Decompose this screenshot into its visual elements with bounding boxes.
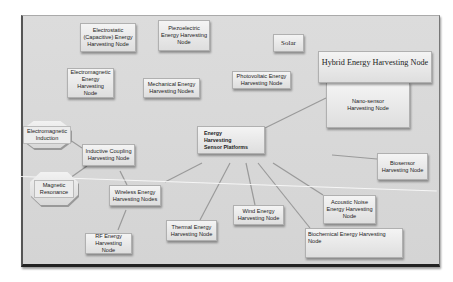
node-label: Solar (281, 39, 296, 47)
node-electromagnetic[interactable]: Electromagnetic Energy Harvesting Node (67, 68, 114, 98)
node-thermal[interactable]: Thermal Energy Harvesting Node (166, 220, 217, 241)
node-label: Biochemical Energy Harvesting Node (308, 231, 396, 245)
node-inductive-coupling[interactable]: Inductive Coupling Harvesting Node (82, 144, 135, 166)
node-piezoelectric[interactable]: Piezoelectric Energy Harvesting Node (158, 20, 210, 51)
node-label: Hybrid Energy Harvesting Node (322, 58, 429, 67)
node-label: Electrostatic (Capacitive) Energy Harves… (83, 27, 133, 48)
node-label: Wireless Energy Harvesting Nodes (112, 189, 158, 203)
node-rf[interactable]: RF Energy Harvesting Node (85, 233, 132, 254)
node-acoustic[interactable]: Acoustic Noise Energy Harvesting Node (323, 195, 376, 224)
node-label: Nano-sensor Harvesting Node (344, 98, 392, 112)
node-biochemical[interactable]: Biochemical Energy Harvesting Node (305, 228, 403, 258)
node-solar[interactable]: Solar (273, 34, 304, 52)
node-label: Thermal Energy Harvesting Node (169, 224, 214, 238)
node-label: Biosensor Harvesting Node (380, 160, 425, 174)
node-photovoltaic[interactable]: Photovoltaic Energy Harvesting Node (232, 71, 291, 89)
node-wind[interactable]: Wind Energy Harvesting Node (233, 205, 284, 225)
node-label: Electromagnetic Induction (23, 126, 71, 144)
node-label: Wind Energy Harvesting Node (236, 208, 281, 222)
node-em-induction[interactable]: Electromagnetic Induction (23, 121, 71, 148)
node-biosensor[interactable]: Biosensor Harvesting Node (377, 153, 428, 180)
node-mechanical[interactable]: Mechanical Energy Harvesting Nodes (143, 78, 200, 98)
node-center-platforms[interactable]: Energy Harvesting Sensor Platforms (197, 126, 265, 154)
node-label: Mechanical Energy Harvesting Nodes (146, 81, 197, 95)
node-wireless[interactable]: Wireless Energy Harvesting Nodes (109, 185, 161, 206)
node-electrostatic[interactable]: Electrostatic (Capacitive) Energy Harves… (80, 23, 136, 52)
node-label: Acoustic Noise Energy Harvesting Node (326, 199, 373, 220)
node-label: Magnetic Resonance (34, 180, 74, 198)
node-label: Energy Harvesting Sensor Platforms (204, 130, 250, 151)
node-label: Electromagnetic Energy Harvesting Node (70, 69, 111, 97)
node-label: Inductive Coupling Harvesting Node (85, 148, 132, 162)
node-hybrid[interactable]: Hybrid Energy Harvesting Node (318, 51, 432, 83)
node-label: RF Energy Harvesting Node (88, 233, 129, 254)
node-nano-sensor[interactable]: Nano-sensor Harvesting Node (326, 82, 410, 128)
node-magnetic-resonance[interactable]: Magnetic Resonance (30, 172, 78, 205)
node-label: Piezoelectric Energy Harvesting Node (161, 25, 207, 46)
node-label: Photovoltaic Energy Harvesting Node (235, 73, 288, 87)
